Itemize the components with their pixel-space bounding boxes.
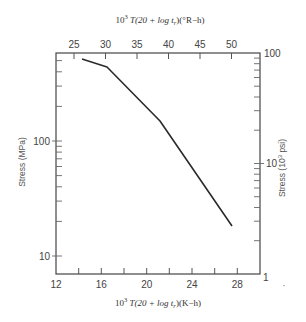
x-top-ticks	[74, 53, 232, 59]
y-right-ticks	[254, 58, 264, 241]
y-right-tick-10: 10	[266, 158, 278, 169]
stray-mark	[283, 285, 285, 286]
larson-miller-curve	[82, 59, 232, 226]
x-top-tick-25: 25	[68, 39, 80, 50]
x-bottom-tick-labels: 12 16 20 24 28	[50, 279, 243, 290]
y-right-tick-100: 100	[264, 48, 281, 59]
x-tick-16: 16	[96, 279, 108, 290]
x-top-tick-45: 45	[194, 39, 206, 50]
x-top-tick-50: 50	[226, 39, 238, 50]
y-left-ticks	[52, 61, 62, 256]
y-left-tick-100: 100	[33, 136, 50, 147]
y-left-tick-10: 10	[39, 251, 51, 262]
x-bottom-axis-title: 103 T(20 + log tr)(K−h)	[115, 296, 201, 309]
x-tick-24: 24	[186, 279, 198, 290]
x-top-axis-title: 103 T(20 + log tr)(°R−h)	[115, 13, 204, 26]
x-top-tick-40: 40	[163, 39, 175, 50]
x-tick-20: 20	[141, 279, 153, 290]
x-tick-28: 28	[232, 279, 244, 290]
y-left-tick-labels: 100 10	[33, 136, 50, 262]
x-top-tick-30: 30	[100, 39, 112, 50]
larson-miller-chart: 12 16 20 24 28 25 30 35 40 45 50	[0, 0, 306, 322]
x-tick-12: 12	[50, 279, 62, 290]
plot-frame	[56, 53, 260, 274]
y-left-axis-title: Stress (MPa)	[17, 137, 27, 187]
x-bottom-ticks	[79, 268, 238, 274]
x-top-tick-35: 35	[131, 39, 143, 50]
y-right-axis-title: Stress (103 psi)	[277, 139, 287, 197]
y-right-tick-1: 1	[263, 272, 269, 283]
x-top-tick-labels: 25 30 35 40 45 50	[68, 39, 237, 50]
